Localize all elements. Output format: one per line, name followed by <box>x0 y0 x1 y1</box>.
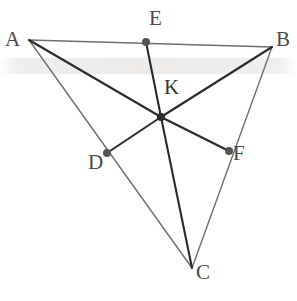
segment-ab <box>29 40 272 47</box>
point-label-k: K <box>164 77 179 98</box>
point-label-e: E <box>149 8 162 29</box>
segment-ek <box>146 42 161 117</box>
point-label-d: D <box>88 152 103 173</box>
segment-kd <box>107 117 161 153</box>
segment-kf <box>161 117 229 151</box>
point-label-f: F <box>233 143 245 164</box>
segment-bc <box>192 47 272 268</box>
geometry-figure: ABCDEFK <box>0 0 297 301</box>
point-label-b: B <box>276 29 290 50</box>
geometry-canvas <box>0 0 297 301</box>
point-marker-e <box>142 38 150 46</box>
point-marker-k <box>157 113 165 121</box>
segment-ak <box>29 40 161 117</box>
point-marker-d <box>103 149 111 157</box>
point-marker-f <box>225 147 233 155</box>
point-label-c: C <box>196 262 210 283</box>
point-label-a: A <box>5 29 20 50</box>
